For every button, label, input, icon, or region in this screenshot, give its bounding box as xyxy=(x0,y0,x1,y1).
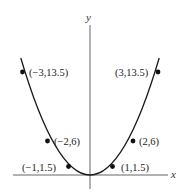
label-neg1: (−1,1.5) xyxy=(22,162,56,174)
parabola-chart: x y (−3,13.5) (−2,6) (−1,1.5) (1,1.5) (2… xyxy=(0,0,179,196)
point-pos3 xyxy=(156,70,161,75)
point-neg2 xyxy=(45,139,50,144)
label-pos2: (2,6) xyxy=(139,136,160,148)
label-neg2: (−2,6) xyxy=(54,136,81,148)
y-axis-label: y xyxy=(85,11,91,23)
x-axis-label: x xyxy=(170,168,176,180)
point-neg3 xyxy=(20,70,25,75)
label-pos3: (3,13.5) xyxy=(115,67,149,79)
point-neg1 xyxy=(66,164,71,169)
label-neg3: (−3,13.5) xyxy=(29,67,69,79)
point-pos2 xyxy=(131,139,136,144)
label-pos1: (1,1.5) xyxy=(121,162,149,174)
point-pos1 xyxy=(110,164,115,169)
